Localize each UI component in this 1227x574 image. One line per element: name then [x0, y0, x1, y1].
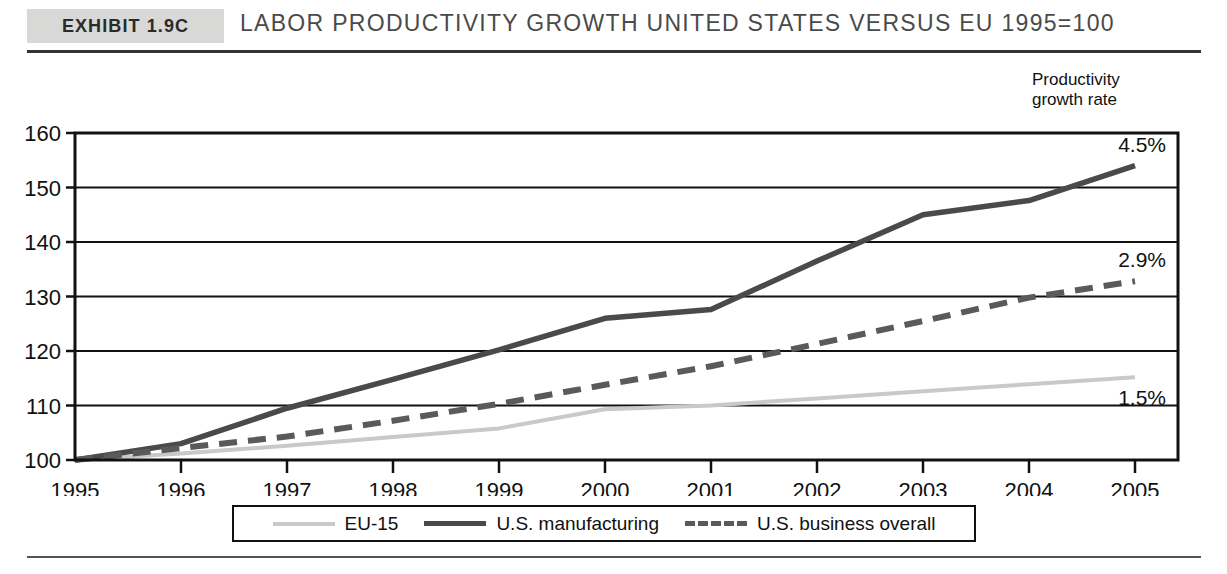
- chart-legend: EU-15 U.S. manufacturing U.S. business o…: [232, 505, 976, 542]
- y-tick-label: 130: [24, 285, 61, 310]
- series-line-eu-15: [75, 377, 1135, 460]
- series-end-labels: 1.5%4.5%2.9%: [1118, 133, 1166, 409]
- x-tick-label: 2000: [581, 478, 630, 496]
- legend-swatch-eu15-icon: [273, 522, 335, 526]
- x-tick-label: 1999: [475, 478, 524, 496]
- x-tick-label: 1997: [263, 478, 312, 496]
- y-tick-label: 140: [24, 230, 61, 255]
- legend-swatch-us-business-overall-icon: [685, 521, 747, 526]
- x-tick-label: 1998: [369, 478, 418, 496]
- legend-label-us-business-overall: U.S. business overall: [757, 513, 935, 535]
- legend-swatch-us-manufacturing-icon: [424, 521, 486, 526]
- legend-item-us-business-overall[interactable]: U.S. business overall: [685, 513, 935, 535]
- x-tick-label: 2005: [1111, 478, 1160, 496]
- y-tick-label: 120: [24, 339, 61, 364]
- x-tick-label: 1996: [157, 478, 206, 496]
- end-label-eu-15: 1.5%: [1118, 386, 1166, 409]
- chart-container: Productivity growth rate 100110120130140…: [0, 56, 1227, 496]
- legend-label-us-manufacturing: U.S. manufacturing: [496, 513, 659, 535]
- legend-label-eu15: EU-15: [345, 513, 399, 535]
- x-tick-label: 2004: [1005, 478, 1054, 496]
- legend-item-eu15[interactable]: EU-15: [273, 513, 399, 535]
- y-axis-ticks: 100110120130140150160: [24, 121, 75, 473]
- exhibit-page: Exhibit 1.9C Labor Productivity Growth U…: [0, 0, 1227, 574]
- exhibit-header: Exhibit 1.9C Labor Productivity Growth U…: [0, 0, 1227, 56]
- x-axis-ticks: 1995199619971998199920002001200220032004…: [51, 460, 1160, 496]
- exhibit-number-label: Exhibit 1.9C: [62, 16, 189, 37]
- legend-item-us-manufacturing[interactable]: U.S. manufacturing: [424, 513, 659, 535]
- y-tick-label: 100: [24, 448, 61, 473]
- exhibit-number-badge: Exhibit 1.9C: [27, 9, 224, 43]
- gridlines: [75, 188, 1178, 406]
- exhibit-title: Labor Productivity Growth United States …: [240, 10, 1115, 37]
- series-line-u-s-manufacturing: [75, 166, 1135, 460]
- x-tick-label: 2002: [793, 478, 842, 496]
- x-tick-label: 1995: [51, 478, 100, 496]
- x-tick-label: 2001: [687, 478, 736, 496]
- header-divider: [27, 50, 1201, 53]
- footer-divider: [27, 556, 1201, 558]
- data-series-group: [75, 166, 1135, 460]
- end-label-u-s-business-overall: 2.9%: [1118, 248, 1166, 271]
- x-tick-label: 2003: [899, 478, 948, 496]
- y-tick-label: 160: [24, 121, 61, 146]
- series-line-u-s-business-overall: [75, 281, 1135, 460]
- line-chart-svg: 100110120130140150160 199519961997199819…: [0, 56, 1227, 496]
- y-tick-label: 150: [24, 176, 61, 201]
- end-label-u-s-manufacturing: 4.5%: [1118, 133, 1166, 156]
- y-tick-label: 110: [26, 394, 61, 419]
